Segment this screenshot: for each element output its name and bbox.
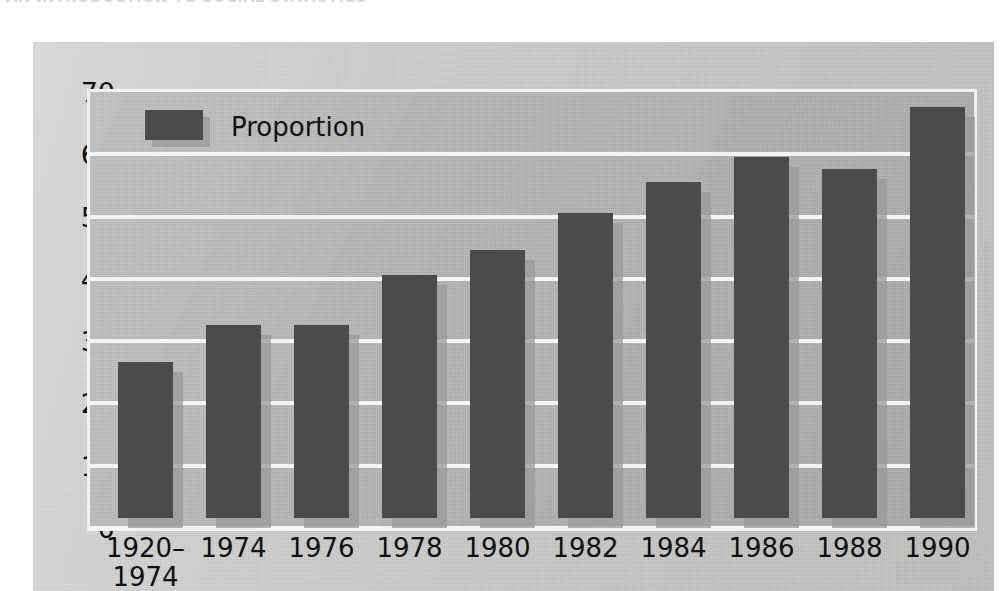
x-axis-tick-label: 1986 [718, 534, 806, 563]
x-axis-tick-label: 1980 [454, 534, 542, 563]
bar-body [470, 250, 525, 518]
bar-body [206, 325, 261, 518]
bar-body [382, 275, 437, 518]
chart-figure-panel: % 010203040506070 Proportion 1920– 19741… [33, 42, 994, 591]
bar [910, 107, 975, 528]
x-axis-tick-label: 1974 [190, 534, 278, 563]
chart-legend: Proportion [145, 110, 365, 144]
cut-off-heading-strip: AN INTRODUCTION TO SOCIAL STATISTICS [0, 0, 1006, 8]
bar-body [822, 169, 877, 518]
bar [118, 362, 183, 528]
x-axis-tick-label: 1978 [366, 534, 454, 563]
bar-body [646, 182, 701, 518]
cut-off-heading-text: AN INTRODUCTION TO SOCIAL STATISTICS [6, 0, 367, 6]
x-axis-tick-label: 1976 [278, 534, 366, 563]
legend-swatch-icon [145, 110, 203, 140]
gridline [90, 152, 974, 156]
bar [470, 250, 535, 528]
bar [206, 325, 271, 528]
legend-swatch-wrapper [145, 110, 205, 144]
bar-body [734, 157, 789, 518]
x-axis-tick-label: 1990 [894, 534, 982, 563]
bar [294, 325, 359, 528]
x-axis-tick-label: 1982 [542, 534, 630, 563]
bar [822, 169, 887, 528]
x-axis: 1920– 1974197419761978198019821984198619… [90, 534, 974, 591]
legend-label: Proportion [231, 114, 365, 140]
bar [734, 157, 799, 528]
x-axis-tick-label: 1920– 1974 [102, 534, 190, 591]
bar [558, 213, 623, 528]
bar [646, 182, 711, 528]
bar [382, 275, 447, 528]
bar-body [558, 213, 613, 518]
plot-area: Proportion [90, 92, 974, 528]
x-axis-tick-label: 1984 [630, 534, 718, 563]
x-axis-tick-label: 1988 [806, 534, 894, 563]
bar-body [118, 362, 173, 518]
bar-body [294, 325, 349, 518]
bar-body [910, 107, 965, 518]
